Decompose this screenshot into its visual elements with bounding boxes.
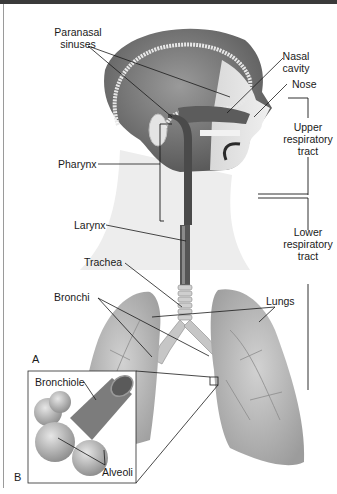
label-line: respiratory — [280, 133, 336, 145]
label-lungs: Lungs — [266, 295, 295, 307]
panel-label-a: A — [32, 353, 39, 365]
label-line: Upper — [280, 121, 336, 133]
label-line: Nasal — [276, 50, 316, 62]
label-bronchiole: Bronchiole — [35, 376, 85, 388]
label-paranasal-sinuses: Paranasal sinuses — [48, 26, 108, 50]
label-pharynx: Pharynx — [58, 158, 97, 170]
label-larynx: Larynx — [74, 219, 106, 231]
label-line: cavity — [276, 62, 316, 74]
label-line: tract — [280, 250, 336, 262]
respiratory-diagram: Paranasal sinuses Nasal cavity Nose Uppe… — [0, 0, 337, 494]
panel-label-b: B — [14, 471, 21, 483]
label-line: sinuses — [48, 38, 108, 50]
label-nasal-cavity: Nasal cavity — [276, 50, 316, 74]
label-nose: Nose — [292, 78, 317, 90]
label-lower-respiratory-tract: Lower respiratory tract — [280, 226, 336, 262]
label-alveoli: Alveoli — [102, 466, 133, 478]
label-bronchi: Bronchi — [54, 291, 90, 303]
label-line: Paranasal — [48, 26, 108, 38]
bronchi — [154, 320, 220, 364]
label-line: Lower — [280, 226, 336, 238]
label-trachea: Trachea — [84, 256, 122, 268]
label-line: respiratory — [280, 238, 336, 250]
label-line: tract — [280, 145, 336, 157]
label-upper-respiratory-tract: Upper respiratory tract — [280, 121, 336, 157]
